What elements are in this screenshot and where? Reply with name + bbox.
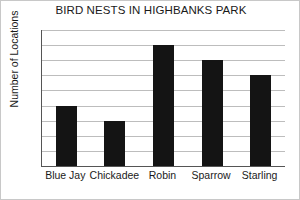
plot-area: 0123456789 bbox=[41, 30, 285, 167]
x-tick-label: Chickadee bbox=[90, 169, 139, 181]
bar-slot bbox=[188, 30, 237, 166]
bar-slot bbox=[236, 30, 285, 166]
x-axis-tick-labels: Blue JayChickadeeRobinSparrowStarling bbox=[41, 169, 284, 181]
bar-series bbox=[42, 30, 285, 166]
bar bbox=[250, 75, 271, 166]
bar-slot bbox=[42, 30, 91, 166]
bar bbox=[153, 45, 174, 166]
bar bbox=[202, 60, 223, 166]
bar-chart-figure: BIRD NESTS IN HIGHBANKS PARK Number of L… bbox=[0, 0, 300, 200]
x-tick-label: Starling bbox=[235, 169, 284, 181]
x-tick-label: Blue Jay bbox=[41, 169, 90, 181]
bar-slot bbox=[91, 30, 140, 166]
x-tick-label: Robin bbox=[138, 169, 187, 181]
y-axis-title: Number of Locations bbox=[8, 0, 20, 119]
bar bbox=[104, 121, 125, 166]
chart-title: BIRD NESTS IN HIGHBANKS PARK bbox=[1, 4, 300, 16]
x-tick-label: Sparrow bbox=[187, 169, 236, 181]
bar bbox=[56, 106, 77, 166]
bar-slot bbox=[139, 30, 188, 166]
